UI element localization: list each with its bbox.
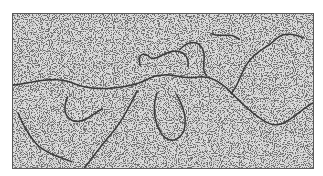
- micrograph-image: [12, 13, 314, 169]
- speckle-background: [13, 14, 313, 168]
- micrograph-texture: [13, 14, 313, 168]
